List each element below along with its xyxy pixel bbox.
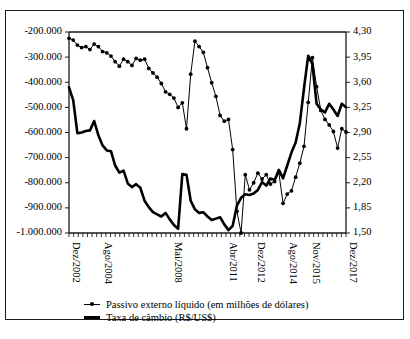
- svg-text:-300.000: -300.000: [24, 51, 62, 62]
- chart-canvas: -200.000-300.000-400.000-500.000-600.000…: [6, 11, 405, 321]
- svg-text:Abr/2011: Abr/2011: [228, 242, 239, 282]
- svg-text:3,95: 3,95: [353, 51, 371, 62]
- svg-text:2,90: 2,90: [353, 126, 371, 137]
- legend-item-passivo: Passivo externo líquido (em milhões de d…: [84, 298, 384, 311]
- chart-plot-area: -200.000-300.000-400.000-500.000-600.000…: [6, 11, 405, 321]
- legend-marker-thick-line-icon: [84, 312, 100, 323]
- svg-text:-800.000: -800.000: [24, 176, 62, 187]
- svg-text:3,60: 3,60: [353, 76, 371, 87]
- svg-text:-700.000: -700.000: [24, 151, 62, 162]
- svg-text:Dez/2017: Dez/2017: [348, 242, 359, 283]
- svg-text:Nov/2015: Nov/2015: [311, 242, 322, 284]
- svg-text:2,55: 2,55: [353, 151, 371, 162]
- legend-item-taxa-cambio: Taxa de câmbio (R$/US$): [84, 311, 384, 324]
- svg-text:4,30: 4,30: [353, 25, 371, 36]
- svg-text:Dez/2002: Dez/2002: [71, 242, 82, 283]
- svg-text:Ago/2014: Ago/2014: [288, 242, 299, 285]
- svg-text:-1.000.000: -1.000.000: [17, 226, 63, 237]
- svg-text:Dez/2012: Dez/2012: [256, 242, 267, 283]
- legend-marker-line-with-dot-icon: [84, 299, 100, 310]
- svg-text:-500.000: -500.000: [24, 101, 62, 112]
- svg-text:-200.000: -200.000: [24, 25, 62, 36]
- svg-text:1,50: 1,50: [353, 226, 371, 237]
- legend-label-taxa-cambio: Taxa de câmbio (R$/US$): [106, 312, 216, 323]
- svg-text:Mai/2008: Mai/2008: [173, 242, 184, 283]
- svg-text:-900.000: -900.000: [24, 201, 62, 212]
- svg-text:Ago/2004: Ago/2004: [103, 242, 114, 285]
- svg-text:1,85: 1,85: [353, 201, 371, 212]
- svg-text:-600.000: -600.000: [24, 126, 62, 137]
- figure-caption: [5, 330, 404, 339]
- legend-label-passivo: Passivo externo líquido (em milhões de d…: [106, 299, 308, 310]
- chart-legend: Passivo externo líquido (em milhões de d…: [84, 298, 384, 324]
- svg-text:-400.000: -400.000: [24, 76, 62, 87]
- svg-text:2,20: 2,20: [353, 176, 371, 187]
- svg-text:3,25: 3,25: [353, 101, 371, 112]
- chart-figure-frame: -200.000-300.000-400.000-500.000-600.000…: [5, 10, 404, 320]
